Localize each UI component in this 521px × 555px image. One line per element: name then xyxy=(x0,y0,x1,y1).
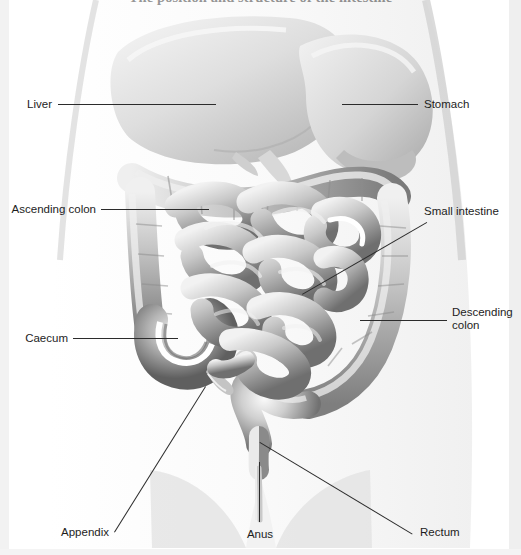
label-caecum: Caecum xyxy=(0,332,68,345)
label-rectum: Rectum xyxy=(420,526,460,539)
label-stomach-text: Stomach xyxy=(424,98,469,110)
label-anus: Anus xyxy=(234,528,286,541)
leader-line-ascending-colon xyxy=(101,209,209,210)
label-ascending-colon-text: Ascending colon xyxy=(12,203,96,215)
leader-line-liver xyxy=(58,104,216,105)
label-small-intestine-text: Small intestine xyxy=(424,205,499,217)
label-appendix: Appendix xyxy=(0,526,109,539)
label-descending-colon-line2: colon xyxy=(452,319,480,331)
label-rectum-text: Rectum xyxy=(420,526,460,538)
label-liver-text: Liver xyxy=(27,98,52,110)
label-small-intestine: Small intestine xyxy=(424,205,499,218)
label-appendix-text: Appendix xyxy=(61,526,109,538)
label-stomach: Stomach xyxy=(424,98,469,111)
label-descending-colon-line1: Descending xyxy=(452,306,513,318)
leader-line-stomach xyxy=(342,104,418,105)
leader-line-descending-colon xyxy=(360,320,447,321)
label-liver: Liver xyxy=(0,98,52,111)
label-descending-colon: Descending colon xyxy=(452,306,513,332)
leader-line-anus xyxy=(259,462,260,522)
label-caecum-text: Caecum xyxy=(25,332,68,344)
figure-page: The position and structure of the intest… xyxy=(0,0,521,555)
label-anus-text: Anus xyxy=(247,528,273,540)
anatomy-illustration xyxy=(0,0,521,555)
leader-line-caecum xyxy=(73,338,178,339)
label-ascending-colon: Ascending colon xyxy=(0,203,96,216)
